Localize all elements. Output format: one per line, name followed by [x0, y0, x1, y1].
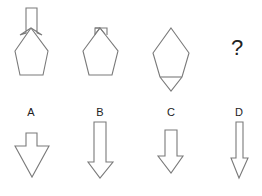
down-arrow-icon: [231, 122, 248, 178]
pentagon-shape: [153, 28, 189, 91]
puzzle-canvas: [0, 0, 262, 196]
option-d-label[interactable]: D: [235, 107, 243, 118]
option-c-label[interactable]: C: [167, 107, 175, 118]
down-arrow-icon: [88, 122, 113, 178]
option-d-arrow[interactable]: [231, 122, 248, 178]
question-mark: ?: [231, 37, 243, 59]
down-arrow-icon: [158, 130, 183, 173]
down-arrow-icon: [15, 133, 49, 177]
pentagon-shape: [83, 28, 118, 75]
option-b-label[interactable]: B: [96, 107, 103, 118]
option-a-label[interactable]: A: [27, 107, 34, 118]
option-b-arrow[interactable]: [88, 122, 113, 178]
option-a-arrow[interactable]: [15, 133, 49, 177]
sequence-figure-3: [153, 28, 189, 91]
sequence-figure-1: [15, 8, 48, 75]
option-c-arrow[interactable]: [158, 130, 183, 173]
sequence-figure-2: [83, 28, 118, 75]
